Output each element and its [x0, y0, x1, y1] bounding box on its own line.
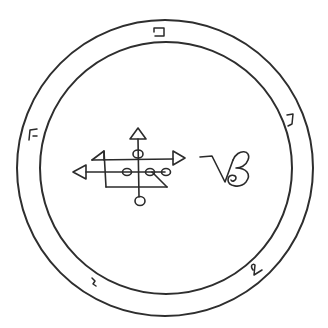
letter-lower-right-glyph [252, 264, 262, 275]
sigil-right-triangle [173, 151, 185, 165]
glyph-b [228, 152, 249, 186]
sigil-left-stem [104, 151, 106, 187]
letter-upper-right-glyph [287, 114, 293, 126]
sigil-center-stem [138, 139, 139, 197]
letter-upper-left-glyph [29, 129, 37, 140]
sigil-left-triangle [73, 165, 86, 179]
sigil [73, 128, 185, 206]
sigil-upper-left-triangle [92, 151, 104, 160]
sigil-top-triangle [130, 128, 146, 139]
sigil-circle-bottom [135, 197, 145, 206]
letter-lower-left-glyph [92, 278, 96, 286]
letter-top-glyph [154, 28, 164, 36]
seal-figure: VB [0, 0, 328, 328]
